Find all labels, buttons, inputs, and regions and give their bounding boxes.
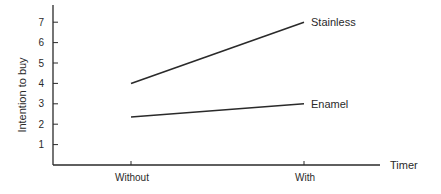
y-tick-label: 1 [38, 139, 44, 150]
line-chart: 1234567 WithoutWith StainlessEnamel Inte… [0, 0, 441, 194]
x-axis-title: Timer [390, 159, 418, 171]
y-tick-label: 2 [38, 119, 44, 130]
y-tick-label: 3 [38, 98, 44, 109]
y-axis-title: Intention to buy [16, 57, 28, 133]
series-label-stainless: Stainless [311, 16, 356, 28]
y-tick-label: 6 [38, 37, 44, 48]
y-tick-label: 4 [38, 78, 44, 89]
y-axis-ticks: 1234567 [38, 17, 58, 150]
series-line-stainless [131, 22, 304, 83]
axes [53, 5, 380, 165]
series-label-enamel: Enamel [311, 98, 348, 110]
series-lines: StainlessEnamel [131, 16, 356, 117]
x-tick-label: Without [115, 172, 149, 183]
y-tick-label: 5 [38, 58, 44, 69]
series-line-enamel [131, 104, 304, 117]
y-tick-label: 7 [38, 17, 44, 28]
x-axis-ticks: WithoutWith [115, 161, 315, 183]
x-tick-label: With [295, 172, 315, 183]
